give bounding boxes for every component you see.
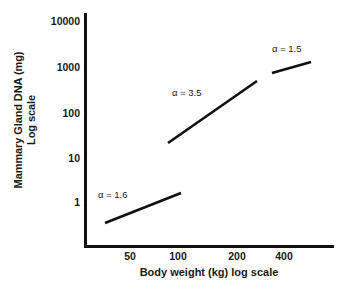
x-tick-label-400: 400 [275,250,293,262]
x-axis-title: Body weight (kg) log scale [84,266,334,278]
x-tick-label-200: 200 [228,250,246,262]
annotation-alpha-3-5: α = 3.5 [172,87,202,98]
data-line-segment-alpha-1-5 [272,62,311,73]
x-tick-label-50: 50 [124,250,136,262]
x-tick-label-100: 100 [169,250,187,262]
annotation-alpha-1-6: α = 1.6 [98,189,128,200]
annotation-alpha-1-5: α = 1.5 [272,43,302,54]
chart-container: Mammary Gland DNA (mg) Log scale 10000 1… [0,0,340,288]
